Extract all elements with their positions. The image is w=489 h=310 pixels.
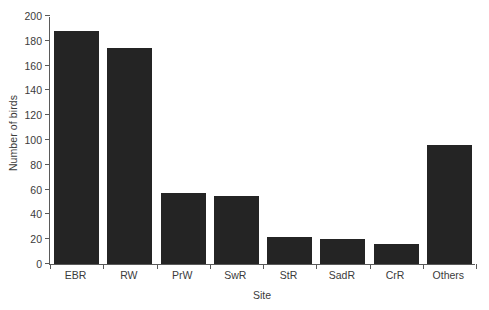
- x-axis-tick: [263, 264, 264, 269]
- y-axis-tick: 120: [45, 114, 50, 115]
- bar-rw: [107, 48, 152, 264]
- y-axis-tick: 140: [45, 89, 50, 90]
- y-axis-tick-label: 60: [30, 184, 42, 195]
- x-axis-tick-label-sadr: SadR: [315, 270, 368, 281]
- x-axis-tick: [210, 264, 211, 269]
- x-axis-tick: [50, 264, 51, 269]
- y-axis-tick-label: 200: [24, 11, 42, 22]
- plot-area: 020406080100120140160180200: [49, 17, 475, 265]
- y-axis-tick: 40: [45, 213, 50, 214]
- y-axis-tick-label: 100: [24, 135, 42, 146]
- y-axis-title: Number of birds: [0, 0, 26, 265]
- bar-str: [267, 237, 312, 264]
- bar-others: [427, 145, 472, 264]
- y-axis-tick: 80: [45, 164, 50, 165]
- x-axis-tick: [157, 264, 158, 269]
- bar-ebr: [54, 31, 99, 264]
- y-axis-tick-label: 140: [24, 85, 42, 96]
- y-axis-tick-label: 180: [24, 36, 42, 47]
- x-axis-tick: [476, 264, 477, 269]
- y-axis-tick-label: 160: [24, 60, 42, 71]
- y-axis-tick: 180: [45, 40, 50, 41]
- y-axis-tick: 60: [45, 189, 50, 190]
- y-axis-title-text: Number of birds: [7, 94, 19, 170]
- y-axis-tick-label: 120: [24, 110, 42, 121]
- y-axis-tick: 100: [45, 139, 50, 140]
- y-axis-tick-label: 0: [36, 259, 42, 270]
- bar-chart-figure: Number of birds 020406080100120140160180…: [0, 0, 489, 310]
- bar-prw: [161, 193, 206, 264]
- x-axis-tick-label-crr: CrR: [369, 270, 422, 281]
- x-axis-tick: [103, 264, 104, 269]
- y-axis-tick-label: 80: [30, 160, 42, 171]
- y-axis-tick-label: 40: [30, 209, 42, 220]
- bar-sadr: [320, 239, 365, 264]
- bar-crr: [374, 244, 419, 264]
- x-axis-tick-label-others: Others: [422, 270, 475, 281]
- y-axis-tick: 160: [45, 65, 50, 66]
- x-axis-title: Site: [49, 289, 475, 301]
- x-axis-tick: [423, 264, 424, 269]
- x-axis-tick-label-str: StR: [262, 270, 315, 281]
- x-axis-tick-label-swr: SwR: [209, 270, 262, 281]
- bar-swr: [214, 196, 259, 264]
- x-axis-tick-label-rw: RW: [102, 270, 155, 281]
- y-axis-tick: 200: [45, 15, 50, 16]
- x-axis-tick-label-ebr: EBR: [49, 270, 102, 281]
- y-axis-tick-label: 20: [30, 234, 42, 245]
- x-axis-tick-label-prw: PrW: [156, 270, 209, 281]
- x-axis-tick: [370, 264, 371, 269]
- x-axis-tick: [316, 264, 317, 269]
- y-axis-tick: 20: [45, 238, 50, 239]
